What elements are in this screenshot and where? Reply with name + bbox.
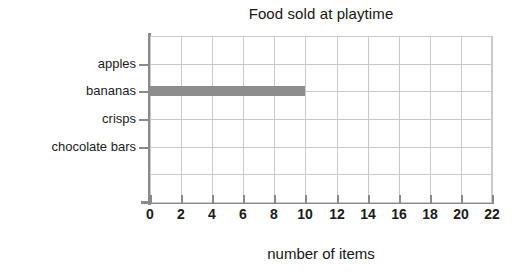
bar-chart-figure: Food sold at playtime applesbananascrisp… — [0, 0, 528, 278]
plot-area — [150, 36, 492, 202]
gridline-vertical — [368, 36, 369, 202]
x-axis-tick — [430, 195, 432, 204]
gridline-horizontal — [150, 119, 492, 120]
gridline-horizontal — [150, 147, 492, 148]
gridline-vertical — [274, 36, 275, 202]
gridline-horizontal — [150, 64, 492, 65]
x-axis-tick-label: 10 — [290, 206, 320, 223]
y-axis-label-apples: apples — [98, 56, 136, 71]
y-axis-label-bananas: bananas — [86, 83, 136, 98]
x-axis-tick — [274, 195, 276, 204]
gridline-vertical — [212, 36, 213, 202]
x-axis-tick-label: 12 — [322, 206, 352, 223]
gridline-vertical — [305, 36, 306, 202]
chart-title: Food sold at playtime — [150, 5, 492, 23]
x-axis-tick — [399, 195, 401, 204]
gridline-vertical — [461, 36, 462, 202]
x-axis-tick — [181, 195, 183, 204]
x-axis-title: number of items — [150, 245, 492, 263]
gridline-vertical — [181, 36, 182, 202]
x-axis-tick-label: 22 — [477, 206, 507, 223]
gridline-vertical — [243, 36, 244, 202]
y-axis-tick — [139, 147, 149, 149]
y-axis-tick — [139, 119, 149, 121]
x-axis-tick-label: 4 — [197, 206, 227, 223]
x-axis-tick-label: 0 — [135, 206, 165, 223]
gridline-vertical — [150, 36, 151, 202]
x-axis-tick — [212, 195, 214, 204]
gridline-vertical — [492, 36, 493, 202]
gridline-vertical — [430, 36, 431, 202]
x-axis-tick — [368, 195, 370, 204]
gridline-vertical — [399, 36, 400, 202]
gridline-horizontal — [150, 36, 492, 37]
x-axis-tick — [337, 195, 339, 204]
x-axis-tick-label: 20 — [446, 206, 476, 223]
y-axis-label-chocolate-bars: chocolate bars — [51, 139, 136, 154]
x-axis-tick — [150, 195, 152, 204]
x-axis-tick-label: 6 — [228, 206, 258, 223]
x-axis-tick — [243, 195, 245, 204]
x-axis-tick — [461, 195, 463, 204]
gridline-horizontal — [150, 174, 492, 175]
bar — [150, 86, 305, 96]
x-axis-tick-label: 16 — [384, 206, 414, 223]
y-axis-label-crisps: crisps — [102, 111, 136, 126]
gridline-vertical — [337, 36, 338, 202]
x-axis-tick-label: 8 — [259, 206, 289, 223]
x-axis-tick-label: 14 — [353, 206, 383, 223]
y-axis-tick — [139, 91, 149, 93]
x-axis-tick-label: 2 — [166, 206, 196, 223]
y-axis-tick — [139, 64, 149, 66]
gridline-horizontal — [150, 202, 492, 203]
x-axis-tick — [492, 195, 494, 204]
x-axis-tick — [305, 195, 307, 204]
x-axis-tick-label: 18 — [415, 206, 445, 223]
